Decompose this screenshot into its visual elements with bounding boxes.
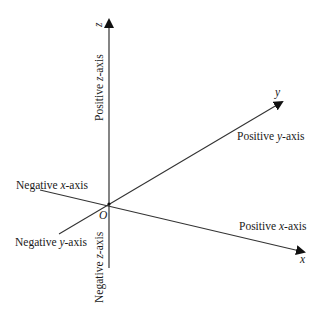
negative-z-axis-label: Negative z-axis — [93, 231, 106, 303]
y-axis-end-label: y — [274, 86, 281, 99]
positive-x-axis-label: Positive x-axis — [239, 220, 307, 232]
negative-x-axis-label: Negative x-axis — [16, 179, 88, 192]
positive-z-axis-label: Positive z-axis — [93, 54, 105, 121]
positive-y-axis-label: Positive y-axis — [237, 130, 305, 143]
origin-point — [107, 202, 110, 205]
z-axis-end-label: z — [92, 22, 104, 28]
origin-label: O — [99, 209, 108, 221]
x-axis-end-label: x — [299, 253, 306, 265]
axes-svg: z y x O Positive z-axis Negative z-axis … — [0, 0, 324, 318]
negative-y-axis-label: Negative y-axis — [15, 236, 87, 249]
coordinate-axes-diagram: z y x O Positive z-axis Negative z-axis … — [0, 0, 324, 318]
